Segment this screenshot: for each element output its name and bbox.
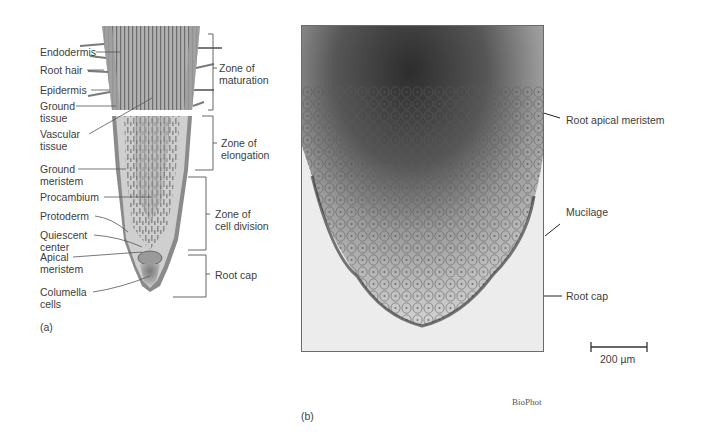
label-columella-cells: Columella cells: [40, 286, 90, 310]
lower-root-section: [112, 116, 192, 292]
label-root-apical-meristem: Root apical meristem: [566, 114, 665, 126]
label-apical-meristem: Apical meristem: [40, 251, 84, 275]
label-endodermis: Endodermis: [40, 46, 96, 58]
label-procambium: Procambium: [40, 191, 99, 203]
label-ground-meristem: Ground meristem: [40, 163, 84, 187]
label-mucilage: Mucilage: [566, 206, 608, 218]
label-root-cap: Root cap: [566, 290, 608, 302]
scale-bar-label: 200 µm: [600, 353, 635, 365]
micrograph: [301, 25, 544, 352]
label-epidermis: Epidermis: [40, 84, 87, 96]
zone-maturation-section: [102, 26, 200, 110]
zone-maturation-label: Zone of maturation: [219, 62, 269, 86]
root-cap-zone-label: Root cap: [215, 269, 257, 281]
zone-elongation-label: Zone of elongation: [221, 137, 269, 161]
label-vascular-tissue: Vascular tissue: [40, 128, 84, 152]
zone-cell-division-label: Zone of cell division: [215, 208, 269, 232]
label-root-hair: Root hair: [40, 64, 83, 76]
label-ground-tissue: Ground tissue: [40, 100, 84, 124]
photo-credit: BioPhot: [512, 397, 542, 407]
label-quiescent-center: Quiescent center: [40, 229, 90, 253]
caption-a: (a): [40, 321, 53, 333]
caption-b: (b): [301, 410, 314, 422]
label-protoderm: Protoderm: [40, 210, 89, 222]
scale-bar: [591, 342, 647, 352]
